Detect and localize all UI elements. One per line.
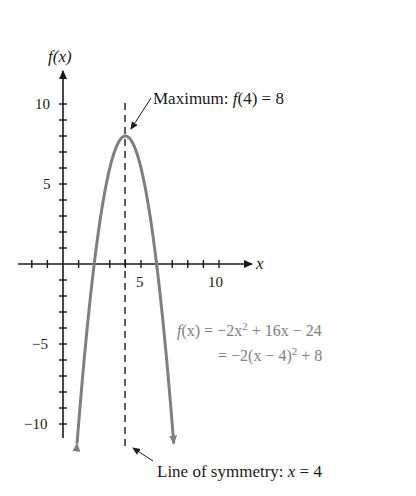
symmetry-pointer-arrow (133, 448, 153, 461)
equation-vertex-form: = −2(x − 4)2 + 8 (218, 345, 322, 365)
x-axis (18, 260, 252, 268)
y-tick-label-10: 10 (35, 96, 50, 112)
y-tick-label-5: 5 (43, 176, 51, 192)
maximum-pointer-arrow (131, 98, 151, 129)
y-tick-label-neg10: −10 (24, 416, 47, 432)
x-tick-label-10: 10 (208, 274, 223, 290)
y-axis-label: f(x) (48, 47, 72, 66)
maximum-label: Maximum: f(4) = 8 (153, 89, 284, 108)
symmetry-label: Line of symmetry: x = 4 (157, 462, 322, 481)
y-axis (59, 71, 67, 438)
x-axis-label: x (255, 254, 264, 273)
x-tick-label-5: 5 (136, 274, 144, 290)
equation-standard-form: f(x) = −2x2 + 16x − 24 (177, 320, 322, 340)
y-tick-label-neg5: −5 (32, 336, 48, 352)
quadratic-chart: f(x) x 5 10 10 5 −5 −10 Maximum: f(4) = … (0, 0, 416, 496)
